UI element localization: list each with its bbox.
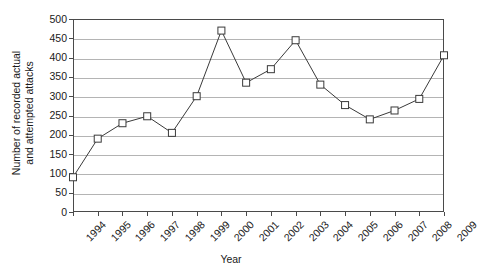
x-axis-tick-mark <box>172 212 173 216</box>
x-axis-tick-mark <box>345 212 346 216</box>
x-axis-tick-label: 2003 <box>306 219 330 243</box>
x-axis-tick-label: 2004 <box>331 219 355 243</box>
y-axis-tick-mark <box>69 173 73 174</box>
x-axis-tick-mark <box>246 212 247 216</box>
y-axis-tick-label: 350 <box>27 71 67 82</box>
x-axis-tick-mark <box>197 212 198 216</box>
y-axis-tick-label: 300 <box>27 91 67 102</box>
x-axis-tick-mark <box>419 212 420 216</box>
y-axis-title-line1: Number of recorded actual <box>10 51 22 175</box>
x-axis-tick-label: 1994 <box>84 219 108 243</box>
x-axis-tick-label: 1999 <box>207 219 231 243</box>
x-axis-tick-mark <box>296 212 297 216</box>
y-axis-tick-label: 500 <box>27 14 67 25</box>
gridline <box>74 39 443 40</box>
x-axis-tick-label: 2009 <box>455 219 479 243</box>
y-axis-tick-mark <box>69 116 73 117</box>
x-axis-tick-label: 1995 <box>109 219 133 243</box>
x-axis-tick-label: 2005 <box>356 219 380 243</box>
x-axis-tick-mark <box>221 212 222 216</box>
x-axis-tick-mark <box>370 212 371 216</box>
y-axis-tick-label: 250 <box>27 110 67 121</box>
y-axis-tick-label: 200 <box>27 129 67 140</box>
x-axis-tick-label: 2000 <box>232 219 256 243</box>
gridline <box>74 174 443 175</box>
x-axis-tick-label: 1998 <box>183 219 207 243</box>
y-axis-tick-mark <box>69 154 73 155</box>
y-axis-tick-mark <box>69 38 73 39</box>
gridline <box>74 117 443 118</box>
x-axis-tick-label: 2007 <box>405 219 429 243</box>
y-axis-tick-label: 150 <box>27 149 67 160</box>
y-axis-tick-mark <box>69 135 73 136</box>
y-axis-tick-label: 400 <box>27 52 67 63</box>
y-axis-tick-mark <box>69 193 73 194</box>
y-axis-tick-mark <box>69 58 73 59</box>
x-axis-title: Year <box>0 253 462 265</box>
gridline <box>74 59 443 60</box>
y-axis-tick-mark <box>69 19 73 20</box>
y-axis-tick-mark <box>69 77 73 78</box>
y-axis-tick-mark <box>69 96 73 97</box>
gridline <box>74 194 443 195</box>
x-axis-tick-label: 1996 <box>133 219 157 243</box>
y-axis-tick-label: 0 <box>27 207 67 218</box>
gridline <box>74 136 443 137</box>
x-axis-tick-label: 2002 <box>282 219 306 243</box>
y-axis-tick-label: 100 <box>27 168 67 179</box>
x-axis-tick-mark <box>271 212 272 216</box>
x-axis-tick-label: 2008 <box>430 219 454 243</box>
y-axis-tick-label: 450 <box>27 33 67 44</box>
gridline <box>74 97 443 98</box>
plot-area <box>73 19 444 212</box>
x-axis-tick-mark <box>98 212 99 216</box>
x-axis-tick-label: 2006 <box>381 219 405 243</box>
x-axis-tick-mark <box>395 212 396 216</box>
x-axis-tick-mark <box>73 212 74 216</box>
x-axis-tick-mark <box>444 212 445 216</box>
gridline <box>74 155 443 156</box>
x-axis-tick-label: 1997 <box>158 219 182 243</box>
x-axis-tick-mark <box>122 212 123 216</box>
y-axis-tick-label: 50 <box>27 187 67 198</box>
x-axis-tick-label: 2001 <box>257 219 281 243</box>
x-axis-tick-mark <box>147 212 148 216</box>
x-axis-tick-mark <box>320 212 321 216</box>
gridline <box>74 78 443 79</box>
